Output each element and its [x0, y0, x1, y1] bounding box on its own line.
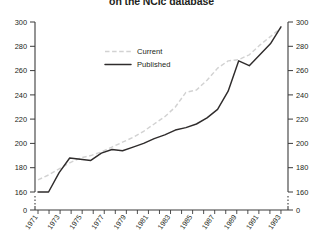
y-tick-label-right-280: 280 — [296, 42, 308, 51]
x-tick-label-1993: 1993 — [266, 213, 283, 231]
y-axis-left-ticks — [30, 22, 35, 210]
y-tick-label-left-260: 260 — [15, 66, 27, 75]
x-tick-label-1985: 1985 — [178, 213, 195, 231]
y-tick-label-left-160: 160 — [15, 188, 27, 197]
y-tick-label-left-280: 280 — [15, 42, 27, 51]
y-tick-label-right-300: 300 — [296, 18, 308, 27]
y-tick-label-right-160: 160 — [296, 188, 308, 197]
x-tick-label-1977: 1977 — [89, 213, 106, 231]
y-tick-label-right-200: 200 — [296, 139, 308, 148]
y-tick-label-right-180: 180 — [296, 163, 308, 172]
x-tick-label-1971: 1971 — [23, 213, 40, 231]
legend-label-current: Current — [137, 47, 163, 56]
legend-label-published: Published — [137, 60, 170, 69]
x-axis-ticks — [38, 210, 281, 214]
y-tick-label-right-220: 220 — [296, 115, 308, 124]
x-tick-label-1975: 1975 — [67, 213, 84, 231]
x-tick-label-1973: 1973 — [45, 213, 62, 231]
y-tick-label-left-180: 180 — [15, 163, 27, 172]
x-tick-label-1981: 1981 — [134, 213, 151, 231]
y-axis-right-ticks — [288, 22, 293, 210]
y-tick-label-right-zero: 0 — [296, 206, 300, 215]
y-axis-right: 300 280 260 240 220 200 180 160 0 — [288, 18, 308, 215]
y-axis-right-labels: 300 280 260 240 220 200 180 160 0 — [296, 18, 308, 215]
y-tick-label-left-220: 220 — [15, 115, 27, 124]
x-tick-label-1983: 1983 — [156, 213, 173, 231]
x-axis: 1971 1973 1975 1977 1979 1981 1983 1985 … — [23, 210, 288, 231]
y-tick-label-left-240: 240 — [15, 91, 27, 100]
x-tick-label-1989: 1989 — [222, 213, 239, 231]
x-tick-label-1987: 1987 — [200, 213, 217, 231]
x-tick-label-1979: 1979 — [111, 213, 128, 231]
y-tick-label-right-260: 260 — [296, 66, 308, 75]
y-tick-label-left-300: 300 — [15, 18, 27, 27]
chart-canvas: 300 280 260 240 220 200 180 160 0 — [0, 0, 323, 246]
y-tick-label-left-zero: 0 — [23, 206, 27, 215]
chart-figure: on the NCIc database 300 280 260 — [0, 0, 323, 246]
y-axis-left: 300 280 260 240 220 200 180 160 0 — [15, 18, 35, 215]
y-axis-left-labels: 300 280 260 240 220 200 180 160 0 — [15, 18, 27, 215]
legend: Current Published — [105, 47, 170, 69]
x-axis-labels: 1971 1973 1975 1977 1979 1981 1983 1985 … — [23, 213, 283, 231]
x-tick-label-1991: 1991 — [244, 213, 261, 231]
y-tick-label-left-200: 200 — [15, 139, 27, 148]
y-tick-label-right-240: 240 — [296, 91, 308, 100]
